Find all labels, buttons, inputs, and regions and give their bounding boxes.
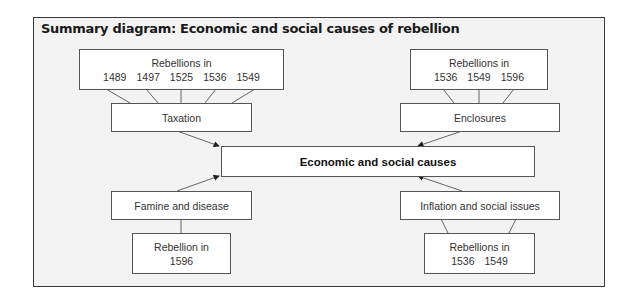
year-list: 1596 [170,254,193,268]
inflation-rebellions-box: Rebellions in 1536 1549 [424,233,535,274]
year: 1489 [103,70,126,84]
year: 1497 [136,70,159,84]
year: 1549 [467,70,490,84]
rebellions-heading: Rebellions in [449,56,509,70]
taxation-rebellions-box: Rebellions in 1489 1497 1525 1536 1549 [79,49,284,90]
rebellions-heading: Rebellions in [151,56,211,70]
year: 1525 [170,70,193,84]
year-list: 1536 1549 1596 [434,70,524,84]
central-box: Economic and social causes [221,146,535,177]
year-list: 1489 1497 1525 1536 1549 [103,70,260,84]
rebellions-heading: Rebellion in [154,240,209,254]
taxation-box: Taxation [111,103,252,132]
year: 1536 [451,254,474,268]
year: 1596 [170,254,193,268]
year: 1549 [485,254,508,268]
year: 1549 [237,70,260,84]
famine-rebellions-box: Rebellion in 1596 [132,233,231,274]
rebellions-heading: Rebellions in [449,240,509,254]
enclosures-box: Enclosures [400,103,560,132]
taxation-label: Taxation [162,111,201,125]
year: 1596 [501,70,524,84]
year-list: 1536 1549 [451,254,508,268]
inflation-box: Inflation and social issues [400,191,560,220]
inflation-label: Inflation and social issues [420,199,540,213]
year: 1536 [203,70,226,84]
year: 1536 [434,70,457,84]
central-label: Economic and social causes [300,155,457,169]
famine-label: Famine and disease [134,199,229,213]
enclosures-rebellions-box: Rebellions in 1536 1549 1596 [410,49,548,90]
enclosures-label: Enclosures [454,111,506,125]
famine-box: Famine and disease [111,191,252,220]
